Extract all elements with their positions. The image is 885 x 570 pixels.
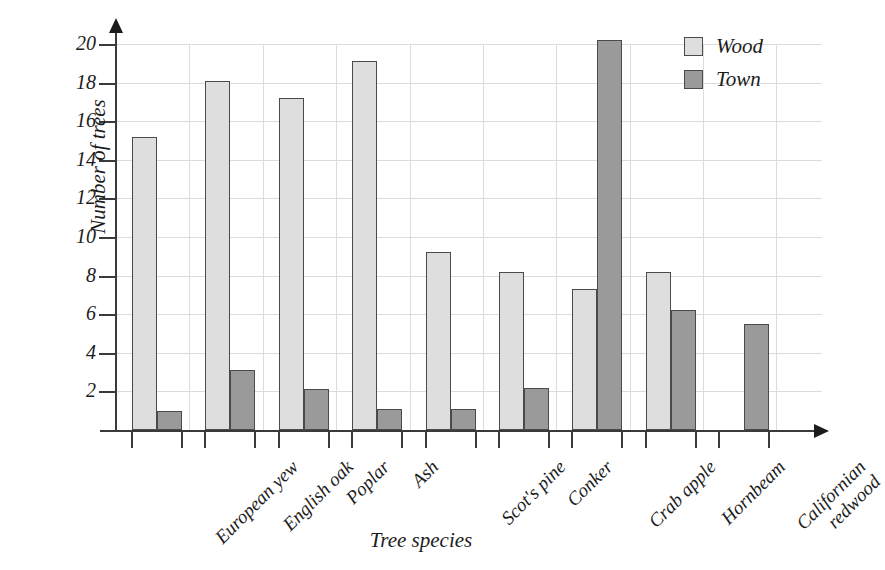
x-axis-label-hornbeam: Hornbeam	[717, 456, 790, 529]
plot-area: 2468101214161820 Number of trees	[116, 44, 822, 430]
gridline-vertical	[703, 44, 704, 430]
x-axis-tick	[351, 430, 353, 448]
bar-town-european-yew	[157, 411, 182, 430]
gridline-vertical	[630, 44, 631, 430]
bar-town-conker	[524, 388, 549, 430]
bar-town-crab-apple	[597, 40, 622, 430]
y-axis-tick-label: 2	[54, 380, 96, 400]
bar-wood-conker	[499, 272, 524, 430]
bar-wood-hornbeam	[646, 272, 671, 430]
x-axis-tick	[718, 430, 720, 448]
bar-town-poplar	[304, 389, 329, 430]
x-axis-label-ash: Ash	[408, 456, 443, 491]
x-axis-arrow-icon	[814, 424, 829, 438]
legend-item-wood[interactable]: Wood	[684, 30, 763, 63]
x-axis-tick	[498, 430, 500, 448]
x-axis-tick	[571, 430, 573, 448]
y-axis-line	[115, 30, 117, 432]
x-axis-tick	[695, 430, 697, 448]
x-axis-tick	[548, 430, 550, 448]
x-axis-tick	[645, 430, 647, 448]
legend-label-wood: Wood	[716, 34, 763, 59]
bar-town-californian-redwood	[744, 324, 769, 430]
x-axis-line	[100, 430, 816, 432]
gridline-vertical	[556, 44, 557, 430]
bar-wood-ash	[352, 61, 377, 430]
x-axis-title: Tree species	[0, 528, 842, 553]
bar-wood-european-yew	[132, 137, 157, 430]
gridline-vertical	[410, 44, 411, 430]
x-axis-tick	[401, 430, 403, 448]
x-axis-tick	[131, 430, 133, 448]
x-axis-label-crab-apple: Crab apple	[645, 456, 721, 532]
legend-swatch-wood-icon	[684, 37, 703, 56]
legend-label-town: Town	[716, 67, 761, 92]
gridline-vertical	[189, 44, 190, 430]
bar-town-english-oak	[230, 370, 255, 430]
x-axis-label-scot-s-pine: Scot's pine	[497, 456, 570, 529]
x-axis-label-conker: Conker	[562, 456, 617, 511]
gridline-vertical	[263, 44, 264, 430]
y-axis-arrow-icon	[109, 18, 123, 33]
legend-item-town[interactable]: Town	[684, 63, 763, 96]
chart-legend: Wood Town	[684, 30, 763, 96]
gridline-vertical	[336, 44, 337, 430]
x-axis-tick	[181, 430, 183, 448]
bar-wood-crab-apple	[572, 289, 597, 430]
gridline-vertical	[776, 44, 777, 430]
bar-wood-scot-s-pine	[426, 252, 451, 430]
bar-wood-poplar	[279, 98, 304, 430]
x-axis-tick	[475, 430, 477, 448]
gridline-vertical	[483, 44, 484, 430]
y-axis-tick-label: 4	[54, 342, 96, 362]
x-axis-tick	[425, 430, 427, 448]
x-axis-tick	[204, 430, 206, 448]
bar-town-ash	[377, 409, 402, 430]
bar-town-scot-s-pine	[451, 409, 476, 430]
bar-wood-english-oak	[205, 81, 230, 430]
bar-town-hornbeam	[671, 310, 696, 430]
y-axis-title: Number of trees	[86, 17, 111, 317]
x-axis-tick	[278, 430, 280, 448]
x-axis-tick	[768, 430, 770, 448]
x-axis-tick	[621, 430, 623, 448]
legend-swatch-town-icon	[684, 70, 703, 89]
x-axis-tick	[328, 430, 330, 448]
x-axis-tick	[254, 430, 256, 448]
